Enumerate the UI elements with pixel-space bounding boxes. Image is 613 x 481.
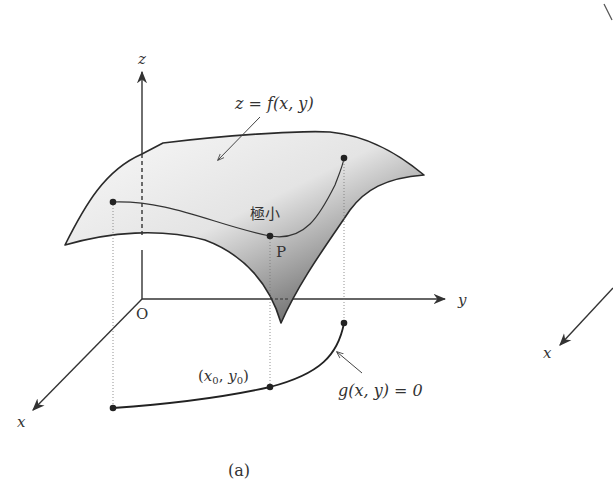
point-right-surface: [341, 155, 348, 162]
point-p: [267, 233, 274, 240]
constraint-label: g(x, y) = 0: [338, 381, 423, 400]
constraint-pointer-arrow: [337, 352, 362, 373]
constraint-point-label: (x0, y0): [198, 367, 249, 386]
z-axis-label: z: [137, 50, 146, 68]
next-figure-axis-top: [604, 4, 612, 20]
figure-caption: (a): [228, 461, 250, 480]
y-axis-label: y: [457, 291, 467, 309]
origin-label: O: [136, 305, 148, 323]
lagrange-diagram: z y x O z = f(x, y) 極小 P (x0, y0) g(x, y…: [0, 0, 613, 481]
point-x0-y0: [267, 384, 274, 391]
point-p-label: P: [276, 243, 286, 261]
constraint-curve: [113, 323, 344, 408]
surface-f: [65, 132, 424, 323]
point-left-plane: [110, 405, 117, 412]
minimum-label: 極小: [250, 205, 280, 223]
x-axis-label: x: [17, 413, 26, 431]
surface-label: z = f(x, y): [234, 94, 314, 113]
next-figure-x-axis: [560, 288, 613, 345]
point-left-surface: [110, 199, 117, 206]
point-right-plane: [341, 320, 348, 327]
next-figure-x-label: x: [543, 344, 552, 362]
x-axis: [33, 299, 142, 410]
